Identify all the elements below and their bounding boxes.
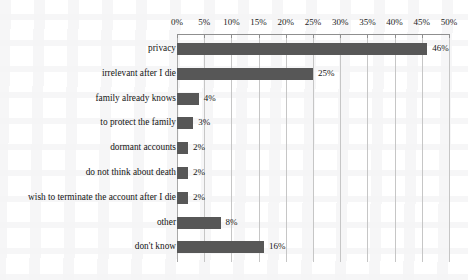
- category-label: privacy: [148, 42, 176, 55]
- x-axis-tick-label: 40%: [386, 16, 403, 28]
- bar: [177, 68, 313, 80]
- x-axis-tick-mark: [259, 35, 260, 38]
- bar: [177, 217, 221, 229]
- category-label: to protect the family: [100, 116, 176, 129]
- bar-value-label: 4%: [204, 92, 216, 105]
- x-axis-tick-label: 5%: [198, 16, 210, 28]
- bar: [177, 142, 188, 154]
- x-axis-tick-label: 15%: [250, 16, 267, 28]
- bar-value-label: 46%: [432, 42, 449, 55]
- category-label: wish to terminate the account after I di…: [28, 191, 176, 204]
- x-axis-tick-mark: [367, 35, 368, 38]
- bar-value-label: 2%: [193, 191, 205, 204]
- x-axis-tick-mark: [313, 35, 314, 38]
- x-axis-tick-label: 50%: [441, 16, 458, 28]
- bar: [177, 117, 193, 129]
- x-axis-tick-mark: [286, 35, 287, 38]
- bar: [177, 43, 427, 55]
- bar-value-label: 2%: [193, 166, 205, 179]
- x-axis-tick-mark: [177, 35, 178, 38]
- bar-row: dormant accounts2%: [0, 142, 468, 154]
- x-axis-tick-label: 0%: [171, 16, 183, 28]
- bar-value-label: 16%: [269, 240, 286, 253]
- bar-chart: 0%5%10%15%20%25%30%35%40%45%50% privacy4…: [0, 0, 468, 280]
- bar-row: don't know16%: [0, 241, 468, 253]
- bar: [177, 93, 199, 105]
- bar-row: wish to terminate the account after I di…: [0, 192, 468, 204]
- bar: [177, 192, 188, 204]
- x-axis-tick-label: 45%: [414, 16, 431, 28]
- x-axis-tick-mark: [449, 35, 450, 38]
- x-axis-tick-mark: [340, 35, 341, 38]
- x-axis-tick-mark: [422, 35, 423, 38]
- bar: [177, 167, 188, 179]
- category-label: other: [157, 216, 176, 229]
- bar-value-label: 2%: [193, 141, 205, 154]
- x-axis-tick-label: 20%: [278, 16, 295, 28]
- category-label: dormant accounts: [110, 141, 176, 154]
- bar-row: privacy46%: [0, 43, 468, 55]
- bar-value-label: 8%: [226, 216, 238, 229]
- x-axis-tick-mark: [395, 35, 396, 38]
- x-axis-tick-label: 10%: [223, 16, 240, 28]
- bar-row: do not think about death2%: [0, 167, 468, 179]
- x-axis-tick-mark: [231, 35, 232, 38]
- category-label: family already knows: [95, 92, 176, 105]
- x-axis-tick-labels: 0%5%10%15%20%25%30%35%40%45%50%: [0, 16, 468, 30]
- bar-row: family already knows4%: [0, 93, 468, 105]
- bar-value-label: 3%: [198, 116, 210, 129]
- bar-row: irrelevant after I die25%: [0, 68, 468, 80]
- x-axis-tick-label: 30%: [332, 16, 349, 28]
- x-axis-tick-mark: [204, 35, 205, 38]
- bar-row: to protect the family3%: [0, 117, 468, 129]
- bar-value-label: 25%: [318, 67, 335, 80]
- category-label: irrelevant after I die: [102, 67, 176, 80]
- bar: [177, 241, 264, 253]
- category-label: do not think about death: [86, 166, 176, 179]
- x-axis-tick-label: 35%: [359, 16, 376, 28]
- x-axis-tick-label: 25%: [305, 16, 322, 28]
- category-label: don't know: [135, 240, 176, 253]
- bar-row: other8%: [0, 217, 468, 229]
